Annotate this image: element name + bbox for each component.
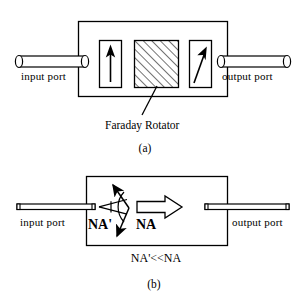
output-port-label-b: output port: [232, 216, 283, 228]
small-na-label: NA': [88, 217, 112, 232]
output-fiber-endcap-right-a: [283, 56, 290, 68]
input-fiber-tip-b: [92, 204, 95, 210]
output-fiber-a: [217, 56, 290, 68]
figure-root: input port output port Faraday Rotator (…: [0, 0, 306, 298]
faraday-rotator-block: [135, 41, 179, 88]
panel-caption-b: (b): [147, 278, 161, 291]
input-fiber-core-b: [17, 204, 20, 210]
output-fiber-tip-b: [286, 204, 289, 210]
panel-b: input port output port NA' NA NA'<<NA (b…: [17, 177, 289, 292]
input-polarizer: [100, 41, 122, 88]
optical-isolator-figure: input port output port Faraday Rotator (…: [0, 0, 306, 298]
input-fiber-b: [17, 204, 95, 210]
output-fiber-core-b: [205, 204, 208, 210]
input-fiber-a: [15, 56, 88, 68]
panel-a: input port output port Faraday Rotator (…: [15, 22, 290, 156]
output-port-label-a: output port: [222, 70, 273, 82]
panel-caption-a: (a): [139, 142, 152, 155]
na-relation-label: NA'<<NA: [131, 251, 182, 265]
output-fiber-b: [205, 204, 289, 210]
input-port-label-a: input port: [21, 70, 66, 82]
faraday-rotator-label: Faraday Rotator: [105, 119, 180, 132]
input-fiber-endcap-right-a: [81, 56, 88, 68]
output-polarizer: [190, 41, 212, 88]
input-port-label-b: input port: [20, 216, 65, 228]
input-fiber-endcap-left-a: [15, 56, 22, 68]
output-fiber-endcap-left-a: [217, 56, 224, 68]
large-na-label: NA: [136, 217, 157, 232]
